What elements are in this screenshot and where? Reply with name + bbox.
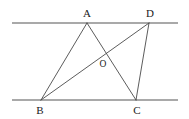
point-label-a: A	[83, 8, 91, 19]
geometry-figure: A D B C O	[0, 0, 189, 119]
point-label-d: D	[146, 8, 154, 19]
point-label-c: C	[133, 105, 140, 116]
segment-DC	[136, 23, 149, 100]
segment-AB	[41, 23, 87, 100]
point-label-b: B	[36, 105, 43, 116]
geometry-canvas	[0, 0, 189, 119]
point-label-o: O	[100, 60, 107, 70]
segment-BD	[41, 23, 149, 100]
